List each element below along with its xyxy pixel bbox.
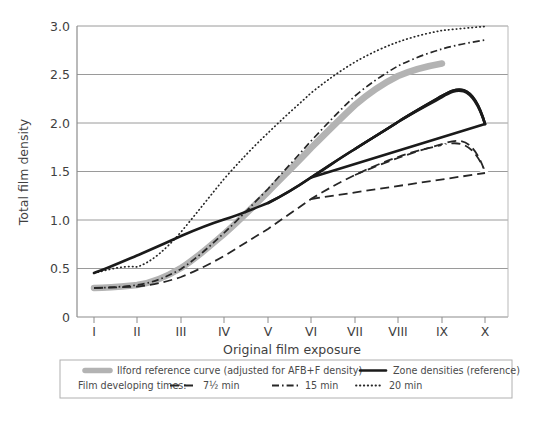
x-axis-tick-labels: I II III IV V VI VII VIII IX X bbox=[92, 324, 490, 339]
y-tick-label-1-5: 1.5 bbox=[50, 164, 70, 179]
x-tick-label-10: X bbox=[481, 324, 490, 339]
series-zone-straight-seg bbox=[311, 124, 485, 178]
legend-label-ilford-reference: Ilford reference curve (adjusted for AFB… bbox=[117, 365, 362, 376]
x-axis-title: Original film exposure bbox=[223, 342, 361, 357]
film-density-chart: 3.0 2.5 2.0 1.5 1.0 0.5 0 I II III IV V … bbox=[0, 0, 536, 422]
legend-label-20-min: 20 min bbox=[389, 380, 422, 391]
data-series-group bbox=[94, 27, 485, 289]
legend-label-7-5-min: 7½ min bbox=[203, 380, 240, 391]
y-tick-label-0-5: 0.5 bbox=[50, 261, 70, 276]
series-zone-densities-final bbox=[268, 91, 485, 203]
series-ilford-reference-curve bbox=[94, 64, 442, 289]
x-tick-label-6: VI bbox=[305, 324, 317, 339]
y-tick-label-1-0: 1.0 bbox=[50, 213, 70, 228]
x-tick-label-9: IX bbox=[436, 324, 449, 339]
legend-label-zone-densities: Zone densities (reference) bbox=[393, 365, 520, 376]
x-tick-label-2: II bbox=[133, 324, 140, 339]
x-tick-label-7: VII bbox=[347, 324, 363, 339]
legend-label-15-min: 15 min bbox=[305, 380, 338, 391]
series-7-5-straight-seg bbox=[311, 173, 485, 199]
y-tick-label-2-5: 2.5 bbox=[50, 67, 70, 82]
series-15-min bbox=[94, 40, 485, 288]
y-tick-label-0: 0 bbox=[62, 310, 70, 325]
y-tick-label-3-0: 3.0 bbox=[50, 19, 70, 34]
y-tick-label-2-0: 2.0 bbox=[50, 116, 70, 131]
data-series-tails bbox=[355, 89, 487, 173]
x-tick-label-8: VIII bbox=[388, 324, 408, 339]
y-axis-tick-labels: 3.0 2.5 2.0 1.5 1.0 0.5 0 bbox=[50, 19, 70, 325]
series-right-ends bbox=[268, 91, 485, 203]
chart-figure: 3.0 2.5 2.0 1.5 1.0 0.5 0 I II III IV V … bbox=[0, 0, 536, 422]
x-tick-label-1: I bbox=[92, 324, 96, 339]
y-axis-title: Total film density bbox=[16, 118, 31, 226]
x-axis-ticks bbox=[94, 317, 485, 323]
x-tick-label-5: V bbox=[264, 324, 273, 339]
x-tick-label-4: IV bbox=[218, 324, 231, 339]
series-zone-densities-tail-draw bbox=[398, 122, 485, 124]
series-7-5-min bbox=[94, 143, 485, 288]
legend-row-1: Ilford reference curve (adjusted for AFB… bbox=[85, 365, 520, 376]
series-zone-densities-right bbox=[355, 89, 485, 149]
x-tick-label-3: III bbox=[175, 324, 186, 339]
series-7-5-tail-mask bbox=[442, 145, 487, 173]
